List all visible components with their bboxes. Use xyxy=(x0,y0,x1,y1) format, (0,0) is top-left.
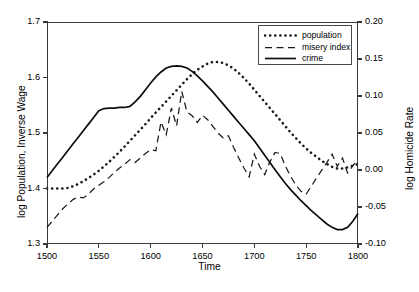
legend-swatch-dotted xyxy=(264,31,297,40)
legend-item-misery-index: misery index xyxy=(264,42,351,54)
legend-swatch-dashed xyxy=(264,43,297,52)
legend-swatch-solid xyxy=(264,54,297,63)
y-tick-left xyxy=(43,132,48,133)
x-tick-label: 1500 xyxy=(25,252,69,261)
y-tick-left xyxy=(43,21,48,22)
y-tick-label-left: 1.6 xyxy=(10,73,40,82)
y-tick-label-right: 0.10 xyxy=(365,91,399,100)
y-tick-label-right: -0.10 xyxy=(365,239,399,248)
legend-label-crime: crime xyxy=(302,54,323,63)
x-tick xyxy=(357,243,358,248)
y-tick-right xyxy=(357,58,362,59)
y-tick-label-right: -0.05 xyxy=(365,202,399,211)
y-tick-right xyxy=(357,132,362,133)
x-tick-label: 1750 xyxy=(284,252,328,261)
y-tick-label-right: 0.15 xyxy=(365,54,399,63)
x-tick xyxy=(150,243,151,248)
x-tick-label: 1600 xyxy=(129,252,173,261)
x-tick-label: 1800 xyxy=(336,252,380,261)
chart-container: 1.31.41.51.61.7-0.10-0.050.000.050.100.1… xyxy=(0,0,419,292)
x-tick xyxy=(306,243,307,248)
x-tick xyxy=(202,243,203,248)
x-tick-label: 1650 xyxy=(181,252,225,261)
x-tick xyxy=(98,243,99,248)
x-tick xyxy=(46,243,47,248)
y-tick-label-left: 1.3 xyxy=(10,239,40,248)
y-tick-right xyxy=(357,206,362,207)
y-tick-right xyxy=(357,169,362,170)
legend-label-population: population xyxy=(302,31,342,40)
y-tick-label-left: 1.7 xyxy=(10,17,40,26)
y-tick-left xyxy=(43,77,48,78)
chart-legend: population misery index crime xyxy=(258,25,352,65)
legend-item-crime: crime xyxy=(264,53,351,65)
legend-item-population: population xyxy=(264,30,351,42)
legend-label-misery-index: misery index xyxy=(302,43,350,52)
y-tick-right xyxy=(357,21,362,22)
y-tick-label-right: 0.00 xyxy=(365,165,399,174)
x-tick xyxy=(254,243,255,248)
y-tick-left xyxy=(43,188,48,189)
y-tick-label-right: 0.05 xyxy=(365,128,399,137)
series-line-crime xyxy=(47,66,358,230)
series-line-misery-index xyxy=(47,91,358,227)
x-axis-title: Time xyxy=(0,261,419,272)
x-tick-label: 1550 xyxy=(77,252,121,261)
x-tick-label: 1700 xyxy=(232,252,276,261)
y-tick-right xyxy=(357,95,362,96)
y-axis-left-title: log Population, Inverse Wage xyxy=(16,85,27,218)
y-axis-right-title: log Homicide Rate xyxy=(404,107,415,190)
y-tick-label-right: 0.20 xyxy=(365,17,399,26)
